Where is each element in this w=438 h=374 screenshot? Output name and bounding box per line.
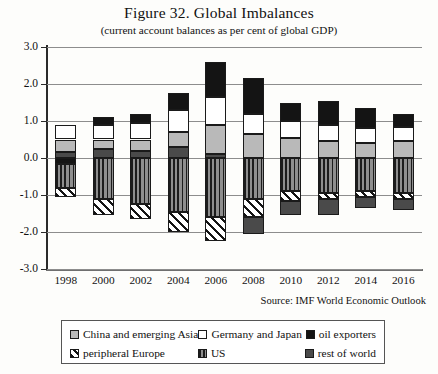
bar-segment-us (393, 158, 414, 193)
bar-segment-us (93, 158, 114, 199)
legend-swatch-china-icon (70, 330, 79, 339)
bar-group[interactable] (280, 47, 301, 269)
y-axis-label: 0.0 (24, 152, 38, 164)
gridline (47, 269, 422, 270)
y-axis-tick (41, 195, 47, 196)
bar-segment-oil (205, 62, 226, 97)
bar-segment-germany (168, 110, 189, 132)
y-axis-tick (41, 84, 47, 85)
y-axis-tick (41, 232, 47, 233)
x-axis-label: 2014 (354, 274, 377, 286)
legend-item-china[interactable]: China and emerging Asia (70, 329, 198, 340)
bar-segment-china (243, 134, 264, 158)
legend-label-row: rest of world (318, 348, 376, 359)
y-axis-label: 1.0 (24, 115, 38, 127)
figure-subtitle: (current account balances as per cent of… (0, 24, 438, 36)
bar-segment-oil (168, 93, 189, 110)
legend-item-us[interactable]: US (198, 348, 305, 359)
bar-segment-germany (205, 97, 226, 125)
x-axis-label: 2012 (317, 274, 340, 286)
bar-segment-germany (130, 123, 151, 140)
x-axis-label: 2010 (279, 274, 302, 286)
bar-segment-europe (168, 212, 189, 232)
bar-group[interactable] (393, 47, 414, 269)
x-axis-label: 2002 (129, 274, 152, 286)
bar-segment-germany (318, 125, 339, 142)
bar-segment-europe (93, 199, 114, 216)
bar-segment-row (393, 199, 414, 210)
bar-segment-row (318, 199, 339, 216)
legend-swatch-germany-icon (198, 330, 207, 339)
legend-item-germany[interactable]: Germany and Japan (198, 329, 305, 340)
legend-row-bottom: peripheral Europe US rest of world (70, 344, 376, 363)
bar-segment-china (205, 125, 226, 155)
y-axis-tick (41, 121, 47, 122)
bar-group[interactable] (55, 47, 76, 269)
bar-segment-europe (130, 204, 151, 219)
bar-segment-us (168, 158, 189, 212)
bar-segment-us (318, 158, 339, 193)
bar-segment-europe (243, 199, 264, 218)
legend-swatch-row-icon (305, 349, 314, 358)
bar-segment-us (243, 158, 264, 199)
bar-segment-row (280, 201, 301, 216)
bar-segment-europe (205, 217, 226, 241)
legend-item-row[interactable]: rest of world (305, 348, 376, 359)
bar-segment-china (93, 140, 114, 149)
bar-group[interactable] (168, 47, 189, 269)
bar-segment-europe (280, 191, 301, 200)
bar-segment-germany (393, 127, 414, 142)
x-axis-label: 2004 (167, 274, 190, 286)
legend-swatch-oil-icon (306, 330, 315, 339)
bar-segment-germany (55, 125, 76, 140)
x-axis-label: 2000 (92, 274, 115, 286)
chart-legend: China and emerging Asia Germany and Japa… (61, 320, 385, 364)
bar-segment-germany (355, 128, 376, 143)
bar-group[interactable] (355, 47, 376, 269)
bar-segment-us (130, 158, 151, 204)
x-axis-label: 2016 (392, 274, 415, 286)
x-axis-label: 1998 (54, 274, 77, 286)
bar-group[interactable] (318, 47, 339, 269)
legend-item-oil[interactable]: oil exporters (306, 329, 376, 340)
plot-area: 3.02.01.00.0-1.0-2.0-3.0 (47, 47, 422, 269)
y-axis-tick (41, 158, 47, 159)
bar-segment-china (355, 143, 376, 158)
bar-segment-china (55, 140, 76, 153)
bar-group[interactable] (130, 47, 151, 269)
bar-segment-row (130, 151, 151, 158)
bar-segment-oil (318, 101, 339, 125)
source-note: Source: IMF World Economic Outlook (261, 295, 427, 306)
figure-container: Figure 32. Global Imbalances (current ac… (0, 0, 438, 374)
bar-group[interactable] (205, 47, 226, 269)
bar-group[interactable] (243, 47, 264, 269)
legend-label-oil: oil exporters (319, 329, 376, 340)
bar-segment-germany (243, 114, 264, 134)
y-axis-label: 2.0 (24, 78, 38, 90)
legend-row-top: China and emerging Asia Germany and Japa… (70, 325, 376, 344)
bar-segment-row (168, 147, 189, 158)
x-axis-label: 2006 (204, 274, 227, 286)
bar-segment-us (205, 158, 226, 217)
bar-segment-china (130, 140, 151, 151)
legend-swatch-us-icon (198, 349, 207, 358)
bar-segment-europe (55, 188, 76, 197)
bar-group[interactable] (93, 47, 114, 269)
bar-segment-china (168, 132, 189, 147)
bar-segment-oil (93, 117, 114, 124)
bar-segment-germany (93, 125, 114, 140)
bar-segment-oil (393, 114, 414, 127)
y-axis-label: 3.0 (24, 41, 38, 53)
bar-segment-row (355, 197, 376, 208)
bar-segment-row (93, 149, 114, 158)
legend-swatch-europe-icon (70, 349, 79, 358)
legend-label-europe: peripheral Europe (83, 348, 165, 359)
y-axis-label: -1.0 (20, 189, 38, 201)
bar-segment-us (280, 158, 301, 191)
bar-segment-oil (130, 114, 151, 123)
legend-label-us: US (211, 348, 226, 359)
bar-segment-row (243, 217, 264, 234)
y-axis-tick (41, 269, 47, 270)
bar-segment-oil (243, 78, 264, 113)
legend-item-europe[interactable]: peripheral Europe (70, 348, 198, 359)
